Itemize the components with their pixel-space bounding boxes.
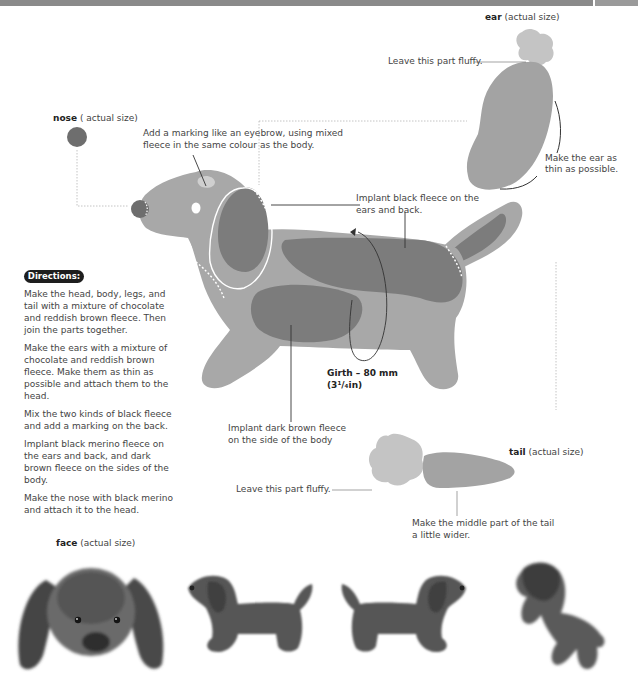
ear-thin-note-1: Make the ear as [545, 153, 617, 165]
directions-badge: Directions: [24, 270, 84, 283]
direction-step: Make the head, body, legs, and tail with… [24, 288, 174, 336]
tail-wider-note-1: Make the middle part of the tail [412, 518, 554, 530]
ear-label: ear (actual size) [485, 12, 560, 24]
direction-step: Implant black merino fleece on the ears … [24, 438, 174, 486]
nose-swatch [67, 127, 87, 147]
black-fleece-note-2: ears and back. [356, 205, 422, 217]
direction-step: Make the ears with a mixture of chocolat… [24, 342, 174, 402]
ear-thin-note-2: thin as possible. [545, 164, 618, 176]
black-fleece-note-1: Implant black fleece on the [356, 193, 479, 205]
tail-label: tail (actual size) [509, 447, 583, 459]
direction-step: Mix the two kinds of black fleece and ad… [24, 408, 174, 432]
eyebrow-note-1: Add a marking like an eyebrow, using mix… [143, 128, 343, 140]
girth-label-1: Girth – 80 mm [327, 368, 398, 380]
tail-shape [332, 434, 515, 516]
eyebrow-note-2: fleece in the same colour as the body. [143, 140, 314, 152]
side-photo-right [334, 568, 474, 663]
tail-fluffy-note: Leave this part fluffy. [236, 484, 331, 496]
three-quarter-photo [505, 555, 625, 675]
ear-fluffy-note: Leave this part fluffy. [388, 56, 483, 68]
directions-list: Make the head, body, legs, and tail with… [24, 288, 174, 522]
direction-step: Make the nose with black merino and atta… [24, 492, 174, 516]
girth-label-2: (3¹/₄in) [327, 380, 362, 392]
tail-wider-note-2: a little wider. [412, 530, 470, 542]
face-label: face (actual size) [56, 538, 135, 550]
dark-brown-note-2: on the side of the body [228, 435, 332, 447]
side-photo-left [180, 568, 320, 663]
dark-brown-note-1: Implant dark brown fleece [228, 423, 346, 435]
nose-label: nose ( actual size) [53, 113, 138, 125]
face-photo [6, 560, 176, 675]
